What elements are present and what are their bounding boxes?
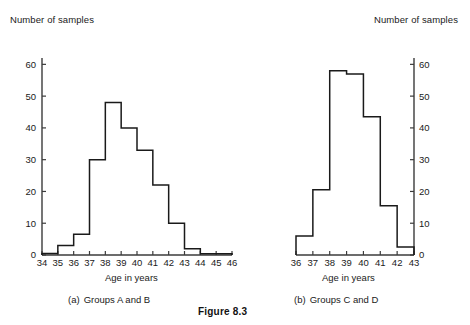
svg-text:46: 46 bbox=[227, 257, 238, 268]
svg-text:41: 41 bbox=[148, 257, 159, 268]
svg-text:40: 40 bbox=[25, 122, 36, 133]
svg-text:42: 42 bbox=[163, 257, 174, 268]
svg-text:40: 40 bbox=[132, 257, 143, 268]
svg-text:43: 43 bbox=[409, 257, 420, 268]
panel-a-caption-marker: (a) bbox=[68, 294, 80, 305]
panel-a-caption: (a)Groups A and B bbox=[68, 294, 150, 305]
svg-text:20: 20 bbox=[419, 186, 430, 197]
histogram-panel-a: Number of samples 0102030405060343536373… bbox=[0, 0, 250, 325]
svg-text:39: 39 bbox=[341, 257, 352, 268]
svg-text:60: 60 bbox=[25, 59, 36, 70]
svg-text:37: 37 bbox=[308, 257, 319, 268]
svg-text:34: 34 bbox=[37, 257, 48, 268]
svg-text:40: 40 bbox=[358, 257, 369, 268]
svg-text:10: 10 bbox=[25, 218, 36, 229]
svg-text:37: 37 bbox=[84, 257, 95, 268]
figure-caption: Figure 8.3 bbox=[198, 306, 247, 317]
svg-text:42: 42 bbox=[392, 257, 403, 268]
histogram-outline bbox=[42, 102, 232, 255]
svg-text:0: 0 bbox=[31, 249, 36, 260]
panel-a-caption-text: Groups A and B bbox=[84, 294, 151, 305]
svg-text:30: 30 bbox=[25, 154, 36, 165]
histogram-panel-b: Number of samples 0102030405060363738394… bbox=[250, 0, 470, 325]
svg-text:41: 41 bbox=[375, 257, 386, 268]
svg-text:44: 44 bbox=[195, 257, 206, 268]
svg-text:39: 39 bbox=[116, 257, 127, 268]
svg-text:38: 38 bbox=[324, 257, 335, 268]
figure-8-3: Number of samples 0102030405060343536373… bbox=[0, 0, 470, 325]
panel-b-caption-text: Groups C and D bbox=[310, 294, 379, 305]
histogram-outline bbox=[296, 71, 414, 255]
svg-text:35: 35 bbox=[53, 257, 64, 268]
svg-text:50: 50 bbox=[25, 91, 36, 102]
svg-text:10: 10 bbox=[419, 218, 430, 229]
svg-text:20: 20 bbox=[25, 186, 36, 197]
svg-text:40: 40 bbox=[419, 122, 430, 133]
svg-text:38: 38 bbox=[100, 257, 111, 268]
panel-b-caption-marker: (b) bbox=[294, 294, 306, 305]
svg-text:36: 36 bbox=[68, 257, 79, 268]
x-axis-title-panel-a: Age in years bbox=[105, 272, 158, 283]
svg-text:43: 43 bbox=[179, 257, 190, 268]
x-axis-title-panel-b: Age in years bbox=[322, 272, 375, 283]
svg-text:60: 60 bbox=[419, 59, 430, 70]
svg-text:30: 30 bbox=[419, 154, 430, 165]
svg-text:36: 36 bbox=[291, 257, 302, 268]
svg-text:0: 0 bbox=[419, 249, 424, 260]
svg-text:45: 45 bbox=[211, 257, 222, 268]
svg-text:50: 50 bbox=[419, 91, 430, 102]
panel-b-caption: (b)Groups C and D bbox=[294, 294, 378, 305]
